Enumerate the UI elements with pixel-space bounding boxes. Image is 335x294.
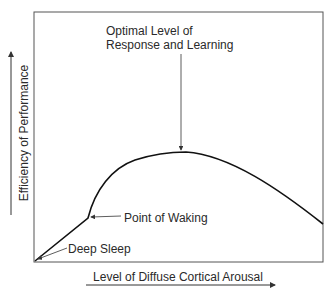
optimal-label-line2: Response and Learning — [106, 38, 233, 52]
waking-pointer-arrow — [91, 216, 121, 217]
deep-sleep-label: Deep Sleep — [68, 242, 131, 256]
deep-sleep-pointer-arrow — [38, 248, 67, 259]
waking-label: Point of Waking — [124, 211, 208, 225]
arousal-performance-diagram: Efficiency of Performance Level of Diffu… — [0, 0, 335, 294]
y-axis-label: Efficiency of Performance — [17, 64, 31, 201]
x-axis-label: Level of Diffuse Cortical Arousal — [93, 270, 263, 284]
optimal-label-line1: Optimal Level of — [106, 24, 193, 38]
